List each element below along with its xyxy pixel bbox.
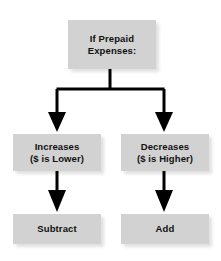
- edge-root-to-increases-arrowhead: [48, 112, 66, 132]
- node-decreases: Decreases ($ is Higher): [121, 134, 209, 171]
- node-label: Decreases ($ is Higher): [137, 141, 193, 165]
- edge-decreases-to-add-arrowhead: [155, 190, 173, 212]
- node-add: Add: [121, 214, 209, 244]
- node-label: If Prepaid Expenses:: [88, 33, 136, 57]
- edge-increases-to-subtract-arrowhead: [48, 190, 66, 212]
- node-label: Increases ($ is Lower): [30, 141, 84, 165]
- node-increases: Increases ($ is Lower): [13, 134, 101, 171]
- edge-root-to-decreases-arrowhead: [155, 112, 173, 132]
- flowchart-diagram: If Prepaid Expenses: Increases ($ is Low…: [0, 0, 221, 261]
- node-if-prepaid-expenses: If Prepaid Expenses:: [68, 20, 156, 69]
- node-subtract: Subtract: [13, 214, 101, 244]
- node-label: Add: [156, 223, 175, 235]
- node-label: Subtract: [37, 223, 76, 235]
